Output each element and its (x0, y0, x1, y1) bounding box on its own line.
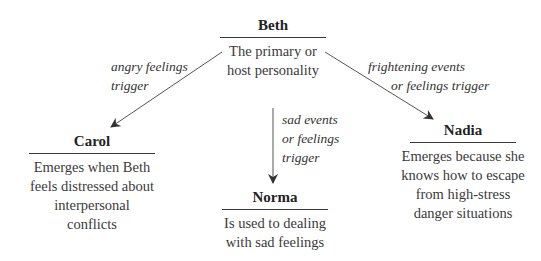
divider (222, 209, 328, 210)
node-description: Is used to dealing with sad feelings (222, 214, 328, 252)
divider (220, 37, 326, 38)
node-title: Nadia (410, 121, 516, 139)
divider (29, 153, 155, 154)
edge-label-carol: angry feelings trigger (111, 57, 188, 95)
edge-label-norma: sad events or feelings trigger (282, 110, 339, 167)
node-description: The primary or host personality (220, 42, 326, 80)
node-description: Emerges when Beth feels distressed about… (29, 158, 155, 234)
node-norma: Norma Is used to dealing with sad feelin… (222, 188, 328, 252)
node-title: Carol (29, 132, 155, 150)
node-beth: Beth The primary or host personality (220, 16, 326, 80)
node-nadia: Nadia Emerges because she knows how to e… (410, 121, 516, 223)
node-title: Beth (220, 16, 326, 34)
node-description: Emerges because she knows how to escape … (392, 147, 534, 223)
divider (410, 142, 516, 143)
node-title: Norma (222, 188, 328, 206)
node-carol: Carol Emerges when Beth feels distressed… (29, 132, 155, 234)
edge-label-nadia: frightening events or feelings trigger (368, 57, 489, 95)
